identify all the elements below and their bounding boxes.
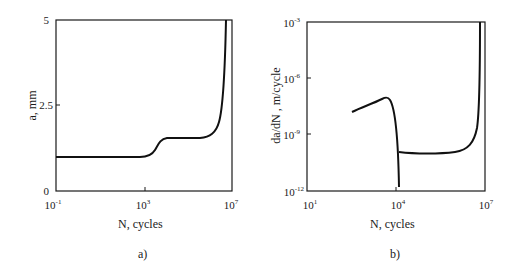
ytick-label: 0 [44,185,50,197]
ytick-label: 10-9 [283,128,300,141]
y-axis-title-b: da/dN , m/cycle [269,46,284,166]
plot-frame-b [307,22,485,191]
long-crack-rate-curve [399,22,480,154]
xtick-label: 103 [136,198,151,211]
plot-frame-a [56,20,232,191]
plots-canvas: 5 2.5 0 10-1 103 107 10-3 [0,0,517,272]
ytick-label: 5 [44,14,50,26]
ytick-label: 10-3 [283,16,300,29]
panel-a: 5 2.5 0 10-1 103 107 [39,14,239,211]
xtick-label: 104 [391,198,406,211]
ytick-label: 2.5 [39,99,53,111]
y-axis-title-a: a, mm [25,76,40,136]
short-crack-rate-curve [352,98,399,187]
xtick-label: 107 [479,198,494,211]
xtick-label: 101 [303,198,318,211]
xtick-label: 10-1 [45,198,62,211]
x-axis-title-a: N, cycles [118,217,163,232]
xtick-label: 107 [224,198,239,211]
figure: 5 2.5 0 10-1 103 107 10-3 [0,0,517,272]
panel-caption-a: a) [138,247,147,262]
crack-length-curve [56,20,226,157]
ytick-label: 10-6 [283,72,300,85]
ytick-label: 10-12 [284,185,305,198]
panel-caption-b: b) [390,247,400,262]
panel-b: 10-3 10-6 10-9 10-12 101 104 107 [283,16,494,211]
x-axis-title-b: N, cycles [370,217,415,232]
